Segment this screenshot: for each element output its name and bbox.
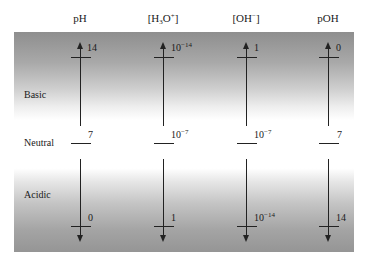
arrow-down-line bbox=[80, 159, 81, 236]
value-top-exp: −14 bbox=[181, 41, 192, 49]
header-poh: pOH bbox=[317, 12, 338, 24]
value-neutral-base: 10 bbox=[254, 129, 264, 140]
header-oh-end: ] bbox=[256, 12, 260, 24]
tick-bottom bbox=[237, 226, 257, 227]
header-h3o-end: ] bbox=[175, 12, 179, 24]
tick-neutral bbox=[71, 143, 91, 144]
tick-top bbox=[237, 57, 257, 58]
value-top: 10−14 bbox=[171, 42, 192, 53]
tick-bottom bbox=[71, 226, 91, 227]
arrow-up-line bbox=[80, 48, 81, 126]
value-bottom: 0 bbox=[88, 212, 93, 223]
tick-neutral bbox=[154, 143, 174, 144]
label-basic: Basic bbox=[24, 89, 46, 100]
value-neutral-exp: −7 bbox=[181, 128, 188, 136]
value-bottom-base: 10 bbox=[254, 212, 264, 223]
tick-bottom bbox=[154, 226, 174, 227]
value-neutral: 7 bbox=[88, 129, 93, 140]
value-bottom: 14 bbox=[336, 212, 346, 223]
header-oh-base: [OH bbox=[232, 12, 252, 24]
value-neutral-base: 10 bbox=[171, 129, 181, 140]
value-neutral-exp: −7 bbox=[264, 128, 271, 136]
tick-top bbox=[71, 57, 91, 58]
tick-neutral bbox=[237, 143, 257, 144]
value-top: 14 bbox=[87, 42, 97, 53]
tick-bottom bbox=[319, 226, 339, 227]
tick-neutral bbox=[319, 143, 339, 144]
label-neutral: Neutral bbox=[24, 137, 54, 148]
arrow-up-line bbox=[163, 48, 164, 126]
value-bottom: 10−14 bbox=[254, 212, 275, 223]
arrow-up-line bbox=[246, 48, 247, 126]
arrow-down-line bbox=[328, 159, 329, 236]
label-acidic: Acidic bbox=[24, 189, 51, 200]
arrow-down-line bbox=[163, 159, 164, 236]
tick-top bbox=[154, 57, 174, 58]
arrow-down-line bbox=[246, 159, 247, 236]
value-top: 0 bbox=[336, 42, 341, 53]
tick-top bbox=[319, 57, 339, 58]
gradient-background-panel bbox=[14, 32, 354, 252]
arrow-down-head-icon bbox=[77, 235, 83, 242]
header-ph: pH bbox=[73, 12, 86, 24]
value-neutral: 7 bbox=[337, 129, 342, 140]
value-neutral: 10−7 bbox=[254, 129, 271, 140]
value-top: 1 bbox=[254, 42, 259, 53]
header-h3o-mid: O bbox=[163, 12, 171, 24]
value-bottom: 1 bbox=[171, 212, 176, 223]
header-oh: [OH−] bbox=[232, 12, 259, 24]
arrow-down-head-icon bbox=[243, 235, 249, 242]
value-neutral: 10−7 bbox=[171, 129, 188, 140]
value-bottom-exp: −14 bbox=[264, 211, 275, 219]
header-h3o-base: [H bbox=[148, 12, 160, 24]
arrow-down-head-icon bbox=[160, 235, 166, 242]
value-top-base: 10 bbox=[171, 42, 181, 53]
arrow-up-line bbox=[328, 48, 329, 126]
header-h3o: [H3O+] bbox=[148, 12, 179, 24]
arrow-down-head-icon bbox=[325, 235, 331, 242]
